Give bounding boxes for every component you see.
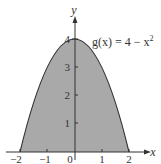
y-tick-label: 1 [65, 117, 71, 129]
x-tick-label: 1 [99, 153, 105, 164]
x-tick-label: 2 [126, 153, 132, 164]
y-axis-label: y [70, 3, 77, 17]
y-tick-label: 4 [65, 33, 71, 45]
y-tick-label: 2 [65, 89, 71, 101]
function-label-exponent: 2 [150, 34, 154, 43]
x-tick-label: −2 [10, 153, 22, 164]
chart: −2 −1 0 1 2 1 2 3 4 x y g(x) = 4 − x2 [0, 0, 161, 164]
x-tick-label: 0 [67, 153, 73, 164]
y-axis-arrow-icon [73, 16, 78, 23]
x-axis-label: x [149, 145, 156, 159]
x-tick-label: −1 [39, 153, 51, 164]
y-tick-label: 3 [65, 61, 71, 73]
function-label-text: g(x) = 4 − x [92, 35, 150, 49]
function-label: g(x) = 4 − x2 [92, 34, 154, 49]
